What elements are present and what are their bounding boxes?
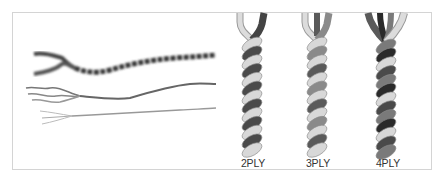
yarn-photo bbox=[0, 0, 230, 181]
rope-3ply bbox=[293, 0, 343, 160]
label-4ply: 4PLY bbox=[363, 157, 413, 169]
thick-yarn bbox=[34, 53, 216, 74]
rope-2ply bbox=[228, 0, 278, 160]
rope-4ply bbox=[358, 0, 418, 160]
medium-yarn bbox=[26, 84, 216, 103]
fine-yarn bbox=[40, 108, 216, 124]
label-2ply: 2PLY bbox=[228, 157, 278, 169]
label-3ply: 3PLY bbox=[293, 157, 343, 169]
